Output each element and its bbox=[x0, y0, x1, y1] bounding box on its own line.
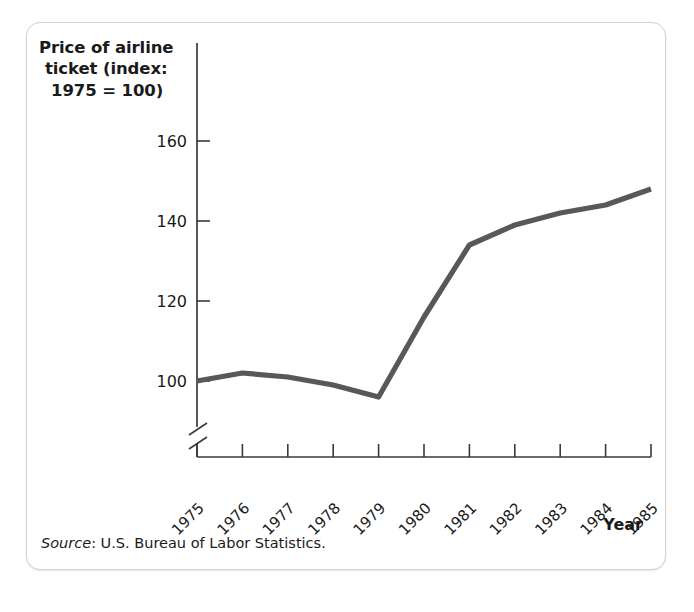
x-tick-labels: 1975 1976 1977 1978 1979 1980 1981 1982 … bbox=[168, 499, 662, 539]
x-tick-label-1975: 1975 bbox=[168, 499, 208, 539]
axis-break-slash-upper bbox=[189, 423, 207, 435]
x-tick-label-1982: 1982 bbox=[486, 499, 526, 539]
y-tick-label-100: 100 bbox=[156, 372, 187, 391]
figure-card: Price of airline ticket (index: 1975 = 1… bbox=[26, 22, 666, 570]
axis-break-slash-lower bbox=[189, 437, 207, 449]
price-index-line bbox=[197, 189, 651, 397]
x-axis-title: Year bbox=[603, 515, 643, 534]
x-tick-label-1983: 1983 bbox=[531, 499, 571, 539]
x-tick-label-1978: 1978 bbox=[304, 499, 344, 539]
source-label: Source bbox=[41, 535, 91, 551]
x-tick-label-1979: 1979 bbox=[350, 499, 390, 539]
source-note: Source: U.S. Bureau of Labor Statistics. bbox=[41, 535, 326, 551]
source-text: : U.S. Bureau of Labor Statistics. bbox=[91, 535, 326, 551]
x-tick-label-1980: 1980 bbox=[395, 499, 435, 539]
line-chart-plot: 160 140 120 100 1975 1976 1977 1978 1979… bbox=[27, 23, 667, 571]
x-tick-label-1981: 1981 bbox=[440, 499, 480, 539]
y-tick-label-120: 120 bbox=[156, 292, 187, 311]
x-tick-label-1977: 1977 bbox=[259, 499, 299, 539]
x-tick-label-1976: 1976 bbox=[213, 499, 253, 539]
y-tick-label-140: 140 bbox=[156, 212, 187, 231]
y-tick-label-160: 160 bbox=[156, 132, 187, 151]
